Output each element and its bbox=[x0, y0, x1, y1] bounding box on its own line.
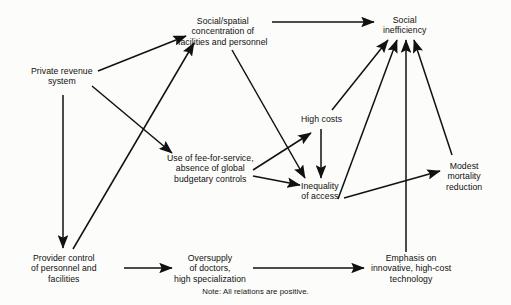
node-provider-control: Provider control of personnel and facili… bbox=[31, 253, 97, 284]
node-social-inefficiency: Social inefficiency bbox=[383, 15, 426, 36]
node-oversupply-of-doctors: Oversupply of doctors, high specializati… bbox=[174, 253, 246, 284]
node-inequality-of-access: Inequality of access bbox=[301, 181, 339, 202]
node-high-costs: High costs bbox=[301, 114, 342, 124]
node-fee-for-service: Use of fee-for-service, absence of globa… bbox=[167, 153, 254, 184]
diagram-note: Note: All relations are positive. bbox=[0, 287, 511, 296]
node-private-revenue-system: Private revenue system bbox=[31, 66, 93, 87]
diagram-canvas: Private revenue systemSocial/spatial con… bbox=[0, 0, 511, 305]
edge-fee-for-service-to-inequality bbox=[253, 176, 300, 185]
node-modest-mortality-reduction: Modest mortality reduction bbox=[446, 161, 482, 192]
edge-inequality-to-mortality bbox=[344, 171, 440, 198]
node-emphasis-technology: Emphasis on innovative, high-cost techno… bbox=[371, 253, 451, 284]
edge-private-revenue-to-concentration bbox=[98, 36, 186, 71]
edge-private-revenue-to-fee-for-service bbox=[92, 86, 172, 153]
edge-high-costs-to-inefficiency bbox=[332, 40, 388, 110]
edge-inequality-to-inefficiency bbox=[338, 40, 397, 199]
node-social-spatial-concentration: Social/spatial concentration of faciliti… bbox=[178, 16, 268, 47]
edge-mortality-to-inefficiency bbox=[414, 40, 452, 155]
